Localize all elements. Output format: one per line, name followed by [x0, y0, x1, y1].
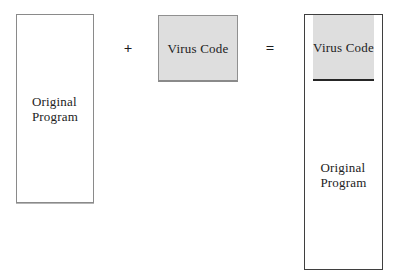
plus-operator: +: [124, 40, 133, 57]
infected-program-box: Virus Code Original Program: [304, 14, 383, 270]
original-program-box: Original Program: [16, 14, 94, 203]
infected-original-label: Original Program: [320, 160, 366, 190]
equals-operator: =: [266, 40, 275, 57]
original-program-label: Original Program: [32, 94, 78, 124]
infected-virus-section: Virus Code: [313, 15, 374, 81]
virus-infection-diagram: Original Program + Virus Code = Virus Co…: [0, 0, 403, 277]
infected-original-section: Original Program: [320, 81, 366, 269]
virus-code-box: Virus Code: [158, 15, 238, 82]
virus-code-label: Virus Code: [168, 41, 229, 56]
infected-virus-label: Virus Code: [313, 40, 374, 55]
